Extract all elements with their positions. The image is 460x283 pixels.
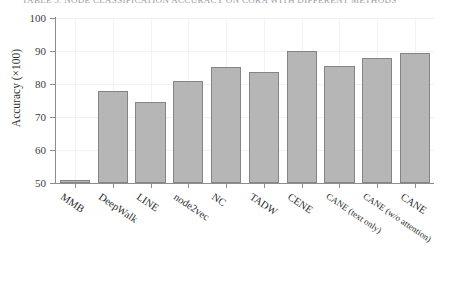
x-tick-label: DeepWalk [97,191,140,225]
x-tick-mark [302,184,303,188]
y-tick-label: 100 [18,12,46,24]
y-tick-mark [50,84,55,85]
bar [211,67,241,183]
y-tick-label: 50 [18,177,46,189]
y-tick-label: 60 [18,144,46,156]
x-tick-label: CANE [399,191,429,216]
x-tick-mark [113,184,114,188]
y-tick-mark [50,117,55,118]
x-tick-mark [264,184,265,188]
bar [98,91,128,183]
bar [400,53,430,183]
bar [173,81,203,183]
x-tick-label: LINE [134,191,160,213]
caption-text: TABLE 5. NODE CLASSIFICATION ACCURACY ON… [22,0,397,5]
y-tick-label: 90 [18,45,46,57]
cropped-caption-strip: TABLE 5. NODE CLASSIFICATION ACCURACY ON… [22,0,438,5]
y-tick-mark [50,150,55,151]
bar [362,58,392,183]
x-tick-label: NC [210,191,228,208]
x-tick-label: TADW [248,191,280,217]
x-tick-mark [339,184,340,188]
plot-area [56,18,434,183]
x-tick-mark [415,184,416,188]
y-axis-line [55,17,56,184]
y-tick-mark [50,18,55,19]
bar [135,102,165,183]
y-tick-mark [50,51,55,52]
figure-bar-chart: TABLE 5. NODE CLASSIFICATION ACCURACY ON… [0,0,460,283]
x-tick-label: node2vec [172,191,212,223]
y-tick-label: 80 [18,78,46,90]
gridline-vertical [75,18,76,183]
y-tick-label: 70 [18,111,46,123]
x-tick-mark [188,184,189,188]
x-tick-mark [75,184,76,188]
x-tick-label: MMB [59,191,86,214]
bar [249,72,279,183]
bar [324,66,354,183]
x-tick-mark [377,184,378,188]
x-tick-label: CENE [286,191,315,215]
y-tick-mark [50,183,55,184]
x-tick-label: CANE (w/o attention) [362,191,434,244]
x-tick-mark [151,184,152,188]
x-tick-mark [226,184,227,188]
bar [287,51,317,183]
